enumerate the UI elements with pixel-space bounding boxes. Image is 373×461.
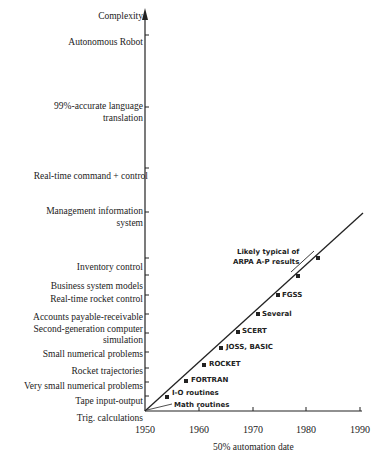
y-label-small-numerical: Small numerical problems [43, 349, 143, 359]
point-several [256, 312, 260, 316]
annotation-arpa-line1: Likely typical of [237, 248, 299, 256]
y-label-mis-line1: Management information [46, 206, 143, 216]
point-label-several: Several [262, 310, 292, 318]
y-axis-title: Complexity [98, 11, 143, 21]
point-fortran [184, 379, 188, 383]
point-label-joss-basic: JOSS, BASIC [226, 343, 273, 351]
point-joss-basic [219, 346, 223, 350]
x-tick-1990: 1990 [350, 424, 370, 435]
y-label-command-control: Real-time command + control [34, 171, 148, 181]
x-tick-1970: 1970 [243, 424, 263, 435]
y-label-rocket-trajectories: Rocket trajectories [72, 366, 143, 376]
point-label-scert: SCERT [242, 327, 267, 335]
y-label-inventory: Inventory control [77, 262, 143, 272]
point-label-fortran: FORTRAN [191, 376, 228, 384]
y-ticks [145, 35, 149, 396]
point-label-math-routines: Math routines [174, 401, 229, 409]
y-label-very-small: Very small numerical problems [24, 381, 143, 391]
y-label-mis-line2: system [117, 218, 143, 228]
point-arpa-1 [296, 274, 300, 278]
point-arpa-2 [316, 256, 320, 260]
x-tick-1950: 1950 [135, 424, 155, 435]
point-label-io-routines: I-O routines [172, 389, 219, 397]
point-fgss [276, 293, 280, 297]
y-label-second-gen-line2: simulation [103, 335, 143, 345]
y-label-tape: Tape input-output [75, 396, 143, 406]
y-label-rocket-control: Real-time rocket control [50, 294, 143, 304]
y-label-translation-line2: translation [103, 113, 143, 123]
annotation-arpa-line2: ARPA A-P results [233, 258, 299, 266]
x-tick-1980: 1980 [296, 424, 316, 435]
point-label-fgss: FGSS [282, 291, 302, 299]
x-axis-title: 50% automation date [213, 442, 294, 452]
y-label-second-gen-line1: Second-generation computer [34, 324, 143, 334]
automation-complexity-chart: Complexity Autonomous Robot 99%-accurate… [0, 0, 373, 461]
point-scert [236, 330, 240, 334]
point-io-routines [165, 395, 169, 399]
point-label-rocket: ROCKET [209, 360, 240, 368]
point-rocket [202, 363, 206, 367]
x-tick-1960: 1960 [189, 424, 209, 435]
y-label-trig: Trig. calculations [77, 413, 143, 423]
y-label-translation-line1: 99%-accurate language [54, 101, 143, 111]
y-label-accounts: Accounts payable-receivable [33, 312, 143, 322]
y-label-business: Business system models [51, 281, 143, 291]
y-label-autonomous-robot: Autonomous Robot [68, 37, 143, 47]
trend-line [145, 213, 363, 411]
